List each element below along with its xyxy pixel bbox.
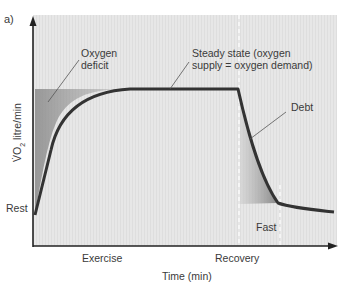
steady-state-label-line2: supply = oxygen demand) [192,59,313,71]
rest-tick-label: Rest [6,202,28,214]
recovery-phase-label: Recovery [215,252,259,264]
debt-label: Debt [291,101,313,113]
x-axis-label: Time (min) [162,270,212,282]
y-axis-label-vo: V̇O [11,147,23,162]
oxygen-deficit-label-line1: Oxygen [81,47,117,59]
oxygen-uptake-diagram [0,0,354,291]
steady-state-label: Steady state (oxygen supply = oxygen dem… [192,47,313,71]
oxygen-deficit-label-line2: deficit [81,59,117,71]
y-axis-label-subscript: 2 [19,143,26,147]
oxygen-deficit-label: Oxygen deficit [81,47,117,71]
fast-label: Fast [256,221,276,233]
y-axis-label-unit: litre/min [11,103,23,143]
panel-label: a) [4,13,14,25]
exercise-phase-label: Exercise [82,252,122,264]
steady-state-label-line1: Steady state (oxygen [192,47,313,59]
y-axis-label: V̇O2 litre/min [11,83,28,183]
